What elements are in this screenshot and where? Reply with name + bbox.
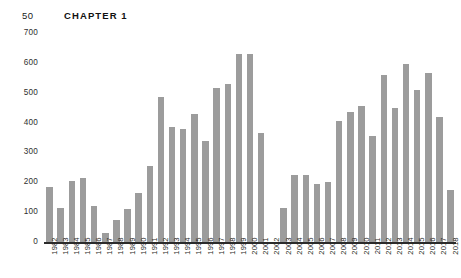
bar-slot <box>178 33 189 242</box>
bar <box>69 181 75 242</box>
y-axis-tick-label: 700 <box>4 29 38 37</box>
bar <box>314 184 320 242</box>
bar-chart-figure: 0100200300400500600700 19821983198419851… <box>0 33 461 278</box>
bar <box>258 133 264 242</box>
bar <box>414 90 420 242</box>
x-tick-slot: 2016 <box>423 246 434 278</box>
book-page: 50 CHAPTER 1 0100200300400500600700 1982… <box>0 0 461 278</box>
chapter-header-title: CHAPTER 1 <box>64 9 128 23</box>
x-axis-tick-labels: 1982198319841985198619871988198919901991… <box>44 246 456 278</box>
bar-slot <box>167 33 178 242</box>
x-tick-slot: 2013 <box>389 246 400 278</box>
x-tick-slot: 1983 <box>55 246 66 278</box>
bar-slot <box>311 33 322 242</box>
x-tick-slot: 2017 <box>434 246 445 278</box>
bar <box>369 136 375 242</box>
bar <box>180 129 186 242</box>
bar-slot <box>412 33 423 242</box>
x-tick-slot: 1997 <box>211 246 222 278</box>
bar-slot <box>278 33 289 242</box>
x-tick-slot: 2011 <box>367 246 378 278</box>
x-tick-slot: 2008 <box>334 246 345 278</box>
bar <box>213 88 219 242</box>
bar-slot <box>389 33 400 242</box>
x-tick-slot: 1986 <box>89 246 100 278</box>
bar <box>381 75 387 242</box>
bar <box>347 112 353 242</box>
x-tick-slot: 2004 <box>289 246 300 278</box>
bar <box>291 175 297 242</box>
bar-slot <box>323 33 334 242</box>
bar <box>325 182 331 242</box>
bar <box>336 121 342 242</box>
bar <box>247 54 253 242</box>
bar <box>303 175 309 242</box>
bar <box>191 114 197 242</box>
x-tick-slot: 1999 <box>233 246 244 278</box>
bar <box>447 190 453 242</box>
bar-slot <box>100 33 111 242</box>
bar-slot <box>66 33 77 242</box>
bar-slot <box>289 33 300 242</box>
bar <box>236 54 242 242</box>
bar <box>425 73 431 242</box>
y-axis-tick-label: 200 <box>4 178 38 186</box>
page-number: 50 <box>22 9 33 23</box>
y-axis: 0100200300400500600700 <box>0 33 38 245</box>
bar <box>46 187 52 242</box>
bar-slot <box>144 33 155 242</box>
running-header: 50 CHAPTER 1 <box>0 9 461 23</box>
bar <box>225 84 231 242</box>
bar <box>158 97 164 242</box>
bar-slot <box>245 33 256 242</box>
bar-slot <box>256 33 267 242</box>
bar <box>80 178 86 242</box>
x-tick-slot: 2010 <box>356 246 367 278</box>
bar-slot <box>155 33 166 242</box>
bar-slot <box>233 33 244 242</box>
bar-slot <box>44 33 55 242</box>
bar-slot <box>111 33 122 242</box>
bar-slot <box>200 33 211 242</box>
plot-area <box>44 33 456 242</box>
x-tick-slot: 2007 <box>323 246 334 278</box>
bar <box>358 106 364 242</box>
x-tick-slot: 1996 <box>200 246 211 278</box>
bar <box>202 141 208 243</box>
x-tick-slot: 1998 <box>222 246 233 278</box>
y-axis-tick-label: 0 <box>4 238 38 246</box>
bar-slot <box>367 33 378 242</box>
x-tick-slot: 2018 <box>445 246 456 278</box>
y-axis-tick-label: 500 <box>4 89 38 97</box>
bar-slot <box>356 33 367 242</box>
x-tick-slot: 2002 <box>267 246 278 278</box>
x-tick-slot: 2012 <box>378 246 389 278</box>
bar-slot <box>211 33 222 242</box>
bar-slot <box>77 33 88 242</box>
x-tick-slot: 2006 <box>311 246 322 278</box>
bar-slot <box>122 33 133 242</box>
bar-series <box>44 33 456 242</box>
bar-slot <box>334 33 345 242</box>
y-axis-tick-label: 600 <box>4 59 38 67</box>
x-tick-slot: 2014 <box>401 246 412 278</box>
bar-slot <box>434 33 445 242</box>
bar-slot <box>300 33 311 242</box>
x-tick-slot: 1984 <box>66 246 77 278</box>
bar-slot <box>55 33 66 242</box>
x-tick-slot: 2015 <box>412 246 423 278</box>
y-axis-tick-label: 300 <box>4 148 38 156</box>
bar-slot <box>423 33 434 242</box>
bar-slot <box>445 33 456 242</box>
bar <box>169 127 175 242</box>
x-tick-slot: 1985 <box>77 246 88 278</box>
bar <box>403 64 409 242</box>
x-tick-slot: 1991 <box>144 246 155 278</box>
x-tick-slot: 1993 <box>167 246 178 278</box>
x-tick-slot: 2003 <box>278 246 289 278</box>
y-axis-tick-label: 100 <box>4 208 38 216</box>
x-tick-slot: 1994 <box>178 246 189 278</box>
bar <box>147 166 153 242</box>
x-tick-slot: 2000 <box>245 246 256 278</box>
x-tick-slot: 2001 <box>256 246 267 278</box>
